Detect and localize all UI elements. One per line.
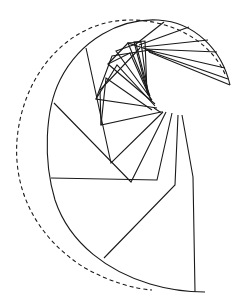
fold-top-3 [143, 40, 208, 47]
fold-top-7 [149, 52, 230, 85]
fold-bottom-vertical [182, 115, 195, 292]
spiral-fold-diagram [0, 0, 244, 306]
fold-lines-group [51, 22, 230, 292]
fold-top-5 [147, 50, 225, 68]
fold-top-6 [148, 51, 228, 79]
fold-left-mid [86, 48, 163, 163]
fold-spiral-tail [154, 108, 163, 112]
